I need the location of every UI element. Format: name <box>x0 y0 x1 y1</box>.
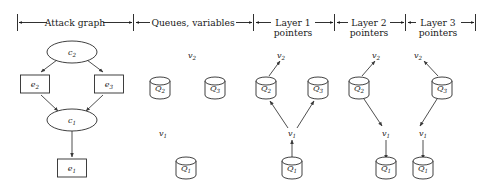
queues-variables-group: v2 v1 Q2 Q3 <box>150 51 225 179</box>
figure-canvas: Attack graph Queues, variables Layer 1 p… <box>0 0 478 194</box>
attack-graph-layers-figure: Attack graph Queues, variables Layer 1 p… <box>0 0 478 194</box>
arrow-l3-q3-to-v1 <box>420 99 437 126</box>
edge-c2-e2 <box>41 60 57 72</box>
edge-e3-c1 <box>86 95 103 111</box>
arrow-l2-q2-to-v1 <box>364 99 382 126</box>
layer-2-pointers-group: v2 v1 Q2 Q1 <box>349 51 396 179</box>
queue-q3-cylinder-layer1: Q3 <box>308 77 328 99</box>
variable-v1-label-layer2: v1 <box>382 129 390 139</box>
queue-q3-cylinder-layer3: Q3 <box>432 77 452 99</box>
queue-q1-cylinder-layer2: Q1 <box>376 157 396 179</box>
queue-q1-cylinder-layer1: Q1 <box>282 157 302 179</box>
arrow-l1-v1-to-q2 <box>270 101 288 128</box>
edge-c2-e3 <box>87 60 103 72</box>
queue-q2-cylinder-queues: Q2 <box>150 77 170 99</box>
arrow-l2-q2-to-v2 <box>362 61 375 76</box>
arrow-l1-q2-to-v2 <box>269 61 280 76</box>
layer-1-pointers-group: v2 v1 Q2 Q3 <box>256 51 328 179</box>
section-header-band: Attack graph Queues, variables Layer 1 p… <box>18 14 476 38</box>
variable-v2-label-queues: v2 <box>188 51 197 61</box>
section-label-layer-1: Layer 1 <box>275 17 310 28</box>
section-label-queues-variables: Queues, variables <box>151 17 235 28</box>
queue-q2-cylinder-layer2: Q2 <box>349 77 369 99</box>
section-label-attack-graph: Attack graph <box>44 17 106 28</box>
section-label-layer-3: Layer 3 <box>420 17 456 28</box>
queue-q2-cylinder-layer1: Q2 <box>256 77 276 99</box>
queue-q3-cylinder-queues: Q3 <box>205 77 225 99</box>
arrow-l1-v1-to-q3 <box>297 101 314 128</box>
layer-3-pointers-group: v2 v1 Q3 Q1 <box>413 51 452 179</box>
section-sublabel-layer-1: pointers <box>274 27 313 38</box>
queue-q1-cylinder-layer3: Q1 <box>413 157 433 179</box>
variable-v2-label-layer1: v2 <box>277 51 286 61</box>
edge-e2-c1 <box>41 95 58 111</box>
arrow-l3-q3-to-v2 <box>424 61 438 76</box>
queue-q1-cylinder-queues: Q1 <box>176 157 196 179</box>
variable-v2-label-layer2: v2 <box>372 51 381 61</box>
section-label-layer-2: Layer 2 <box>351 17 386 28</box>
variable-v2-label-layer3: v2 <box>414 51 423 61</box>
section-sublabel-layer-3: pointers <box>419 27 458 38</box>
variable-v1-label-layer3: v1 <box>419 129 427 139</box>
section-sublabel-layer-2: pointers <box>350 27 389 38</box>
variable-v1-label-queues: v1 <box>159 129 167 139</box>
variable-v1-label-layer1: v1 <box>288 129 296 139</box>
attack-graph-group: c2 e2 e3 c1 e1 <box>21 41 124 177</box>
